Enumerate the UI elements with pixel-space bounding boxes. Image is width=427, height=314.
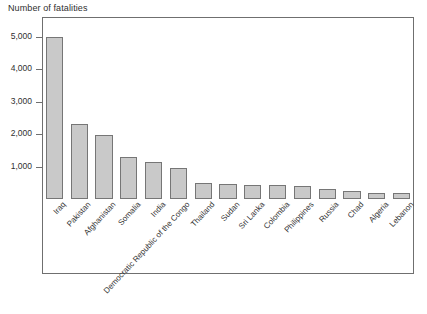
bar-chart-figure: Number of fatalities 1,0002,0003,0004,00…: [0, 0, 427, 314]
bar: [368, 193, 385, 199]
category-label: Somalia: [116, 200, 142, 227]
category-axis-labels: IraqPakistanAfghanistanSomaliaIndiaDemoc…: [42, 200, 422, 312]
y-axis-tick-label: 1,000: [0, 161, 32, 171]
y-axis-tick-label: 2,000: [0, 128, 32, 138]
bar: [244, 185, 261, 199]
category-label: India: [149, 200, 167, 219]
category-label: Iraq: [52, 200, 68, 216]
plot-area: [42, 17, 414, 199]
y-axis-tick-label: 4,000: [0, 63, 32, 73]
bar: [120, 157, 137, 199]
bar: [269, 185, 286, 199]
category-label: Sri Lanka: [237, 200, 267, 231]
bar: [195, 183, 212, 199]
bar: [145, 162, 162, 199]
category-label: Russia: [318, 200, 341, 224]
category-label: Algeria: [367, 200, 391, 224]
bar: [294, 186, 311, 199]
category-label: Chad: [346, 200, 366, 220]
bar: [393, 193, 410, 199]
chart-axis-title: Number of fatalities: [8, 3, 88, 13]
category-label: Thailand: [189, 200, 217, 229]
y-axis-tick-label: 5,000: [0, 31, 32, 41]
bar: [319, 189, 336, 199]
bar: [71, 124, 88, 199]
bar: [46, 37, 63, 200]
bar: [95, 135, 112, 199]
category-label: Lebanon: [387, 200, 415, 229]
bar: [170, 168, 187, 199]
y-axis-tick-label: 3,000: [0, 96, 32, 106]
bar: [219, 184, 236, 199]
category-label: Democratic Republic of the Congo: [102, 200, 192, 295]
category-label: Sudan: [219, 200, 241, 223]
bar: [343, 191, 360, 199]
